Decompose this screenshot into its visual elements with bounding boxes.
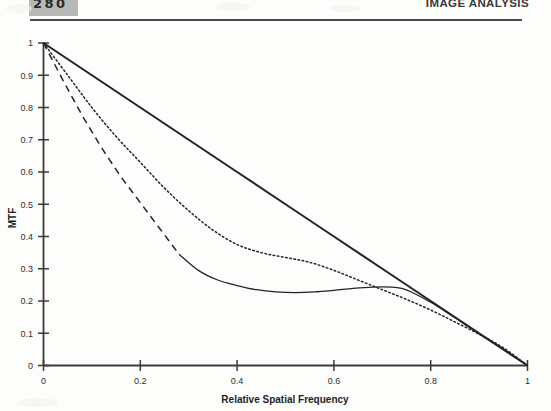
mtf-plot: 00.10.20.30.40.50.60.70.80.91 00.20.40.6…: [0, 28, 551, 411]
x-axis-title: Relative Spatial Frequency: [221, 394, 349, 405]
mtf-solid-thin: [179, 254, 527, 365]
y-tick-label: 0.4: [20, 232, 33, 242]
header-rule: [30, 19, 522, 21]
x-axis-ticks: 00.20.40.60.81: [41, 360, 530, 386]
paper-blotch: [216, 3, 250, 11]
mtf-figure: 00.10.20.30.40.50.60.70.80.91 00.20.40.6…: [0, 28, 551, 411]
x-tick-label: 1: [525, 376, 530, 386]
chapter-title: IMAGE ANALYSIS: [426, 0, 529, 9]
y-tick-label: 0.1: [20, 329, 33, 339]
x-tick-label: 0: [41, 376, 46, 386]
paper-blotch: [330, 5, 360, 12]
running-head: 280 IMAGE ANALYSIS: [0, 0, 551, 30]
page-root: { "header": { "page_number": "280", "cha…: [0, 0, 551, 411]
y-tick-label: 1: [28, 38, 33, 48]
x-tick-label: 0.2: [134, 376, 147, 386]
paper-blotch: [6, 4, 32, 13]
y-tick-label: 0.3: [20, 264, 33, 274]
x-tick-label: 0.8: [424, 376, 437, 386]
y-tick-label: 0: [28, 361, 33, 371]
x-tick-label: 0.4: [231, 376, 244, 386]
y-axis-ticks: 00.10.20.30.40.50.60.70.80.91: [20, 38, 49, 371]
y-axis-title: MTF: [7, 208, 18, 229]
y-tick-label: 0.6: [20, 167, 33, 177]
y-tick-label: 0.7: [20, 135, 33, 145]
data-curves: [44, 43, 528, 366]
y-tick-label: 0.5: [20, 200, 33, 210]
page-number: 280: [33, 0, 68, 11]
mtf-dashed: [44, 43, 180, 254]
y-tick-label: 0.8: [20, 103, 33, 113]
y-tick-label: 0.9: [20, 71, 33, 81]
x-tick-label: 0.6: [328, 376, 341, 386]
y-tick-label: 0.2: [20, 296, 33, 306]
